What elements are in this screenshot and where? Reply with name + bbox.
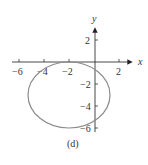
x-tick-label: −2: [62, 66, 73, 77]
y-axis-label: y: [91, 13, 97, 24]
figure-caption: (d): [67, 138, 79, 150]
x-tick-label: 2: [116, 66, 121, 77]
y-tick-label: −6: [80, 123, 91, 134]
y-tick-label: −4: [80, 101, 91, 112]
chart: x y −6 −4 −2 2 2 −2 −4 −6 (d): [0, 0, 148, 165]
y-tick-label: 2: [85, 35, 90, 46]
x-tick-label: −6: [12, 66, 23, 77]
y-tick-label: −2: [80, 79, 91, 90]
x-axis-label: x: [137, 56, 143, 67]
